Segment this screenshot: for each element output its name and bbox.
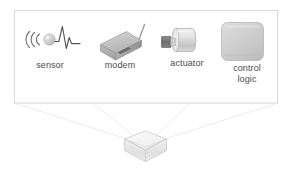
label-control-logic: control logic bbox=[219, 63, 275, 84]
diagram-vector-layer bbox=[0, 0, 289, 171]
target-device bbox=[125, 131, 167, 162]
label-sensor: sensor bbox=[22, 60, 78, 71]
control-logic-block-icon bbox=[222, 23, 264, 61]
diagram-canvas: sensor modem actuator control logic bbox=[0, 0, 289, 171]
label-actuator: actuator bbox=[157, 58, 217, 69]
label-modem: modem bbox=[92, 60, 148, 71]
